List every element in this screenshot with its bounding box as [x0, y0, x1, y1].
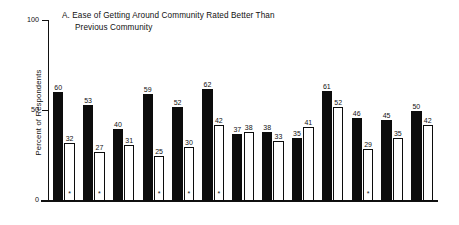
bar-dark: 62: [202, 89, 212, 201]
bar-value-label: 25: [155, 148, 163, 156]
bar-value-label: 38: [263, 124, 271, 132]
bar-dark: 40: [113, 129, 123, 201]
bar-light: 35: [393, 138, 403, 201]
bar-dark: 61: [322, 91, 332, 201]
bar-light: 41: [303, 127, 313, 201]
bar-dark: 38: [262, 132, 272, 201]
bar-light: 38: [244, 132, 254, 201]
bar-value-label: 53: [84, 97, 92, 105]
bar-value-label: 37: [233, 126, 241, 134]
bar-group: 3738: [228, 20, 258, 201]
bar-value-label: 29: [364, 141, 372, 149]
significance-marker: *: [68, 191, 71, 197]
bar-dark: 37: [232, 134, 242, 201]
bar-group: 6242*: [198, 20, 228, 201]
bar-value-label: 35: [293, 130, 301, 138]
bar-value-label: 50: [412, 103, 420, 111]
bar-light: 27*: [94, 152, 104, 201]
y-tick-50: [42, 110, 49, 111]
y-tick-label-100: 100: [17, 15, 39, 24]
bar-dark: 53: [83, 105, 93, 201]
y-tick-label-50: 50: [17, 105, 39, 114]
bar-light: 42*: [214, 125, 224, 201]
bar-value-label: 31: [125, 137, 133, 145]
bar-group: 5230*: [168, 20, 198, 201]
bar-value-label: 38: [245, 124, 253, 132]
significance-marker: *: [158, 191, 161, 197]
bar-dark: 35: [292, 138, 302, 201]
bar-value-label: 62: [204, 81, 212, 89]
plot-area: 6032*5327*40315925*5230*6242*37383833354…: [49, 20, 437, 201]
y-tick-0: [42, 200, 49, 201]
bar-group: 6032*: [49, 20, 79, 201]
bar-value-label: 52: [334, 99, 342, 107]
bar-light: 31: [124, 145, 134, 201]
bar-value-label: 35: [394, 130, 402, 138]
bar-value-label: 52: [174, 99, 182, 107]
bar-value-label: 33: [275, 133, 283, 141]
bar-light: 42: [423, 125, 433, 201]
bar-value-label: 59: [144, 86, 152, 94]
bar-value-label: 40: [114, 121, 122, 129]
bar-value-label: 46: [353, 110, 361, 118]
bar-value-label: 60: [54, 84, 62, 92]
significance-marker: *: [98, 191, 101, 197]
bar-light: 29*: [363, 149, 373, 201]
bar-value-label: 61: [323, 83, 331, 91]
bar-group: 6152: [318, 20, 348, 201]
y-tick-100: [42, 20, 49, 21]
bar-dark: 46: [352, 118, 362, 201]
bar-value-label: 42: [424, 117, 432, 125]
bar-group: 3541: [288, 20, 318, 201]
bar-light: 33: [273, 141, 283, 201]
significance-marker: *: [188, 191, 191, 197]
bar-group: 5327*: [79, 20, 109, 201]
bar-value-label: 42: [215, 117, 223, 125]
bar-value-label: 45: [383, 112, 391, 120]
significance-marker: *: [367, 191, 370, 197]
bar-value-label: 30: [185, 139, 193, 147]
bar-group: 5925*: [139, 20, 169, 201]
bar-dark: 52: [172, 107, 182, 201]
bar-group: 4629*: [347, 20, 377, 201]
bar-dark: 59: [143, 94, 153, 201]
bar-light: 30*: [184, 147, 194, 201]
bar-value-label: 41: [304, 119, 312, 127]
bar-light: 32*: [64, 143, 74, 201]
bar-light: 25*: [154, 156, 164, 201]
bar-value-label: 32: [66, 135, 74, 143]
bar-group: 4535: [377, 20, 407, 201]
chart-figure: A. Ease of Getting Around Community Rate…: [0, 0, 459, 225]
y-tick-label-0: 0: [17, 195, 39, 204]
bar-group: 3833: [258, 20, 288, 201]
bar-value-label: 27: [96, 144, 104, 152]
bar-dark: 45: [381, 120, 391, 201]
bar-group: 4031: [109, 20, 139, 201]
bar-dark: 60: [53, 92, 63, 201]
bar-light: 52: [333, 107, 343, 201]
bar-group: 5042: [407, 20, 437, 201]
significance-marker: *: [217, 191, 220, 197]
bar-dark: 50: [411, 111, 421, 202]
